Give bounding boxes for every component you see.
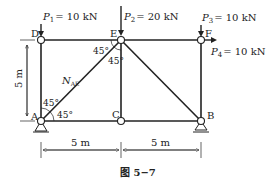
load-label-P3: P3= 10 kN: [201, 12, 257, 25]
node-B: [198, 118, 205, 125]
truss-diagram: D E F A C B P1= 10 kN P2= 20 kN P3= 10 k…: [0, 0, 272, 185]
label-A: A: [30, 111, 39, 122]
member-EB: [121, 40, 201, 121]
load-label-P4: P4= 10 kN: [210, 46, 266, 59]
angle-label-E-lower: 45°: [108, 56, 124, 66]
angle-label-A-upper: 45°: [43, 98, 59, 108]
label-B: B: [207, 110, 214, 121]
node-F: [198, 37, 205, 44]
figure-caption: 图 5−7: [120, 167, 156, 178]
node-A: [38, 118, 45, 125]
load-label-P1: P1= 10 kN: [42, 11, 98, 24]
member-AE: [41, 40, 121, 121]
label-F: F: [205, 28, 212, 39]
label-C: C: [112, 109, 120, 120]
span-left-label: 5 m: [71, 137, 91, 148]
arrow-down-icon: [198, 25, 204, 37]
height-dimension-label: 5 m: [13, 68, 24, 88]
load-labels: P1= 10 kN P2= 20 kN P3= 10 kN P4= 10 kN: [42, 11, 266, 59]
span-dimensions: [41, 142, 201, 158]
angle-label-A-right: 45°: [57, 110, 73, 120]
span-right-label: 5 m: [151, 137, 171, 148]
node-E: [118, 37, 125, 44]
load-label-P2: P2= 20 kN: [123, 11, 179, 24]
label-E: E: [110, 28, 117, 39]
member-force-label-NAE: NAE: [61, 75, 79, 87]
label-D: D: [31, 28, 39, 39]
angle-label-E-left: 45°: [93, 46, 109, 56]
